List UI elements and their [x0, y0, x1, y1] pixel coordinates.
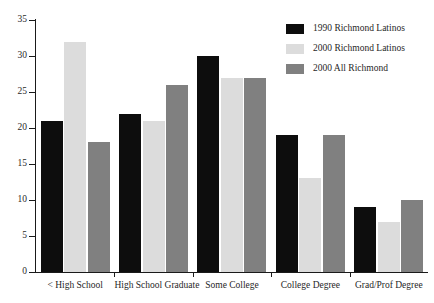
- y-axis-tick: [29, 236, 36, 237]
- legend-swatch-icon: [286, 44, 304, 54]
- y-axis-tick: [29, 128, 36, 129]
- bar[interactable]: [197, 56, 219, 272]
- y-axis-tick-label: 10: [1, 195, 27, 205]
- legend-item[interactable]: 2000 Richmond Latinos: [286, 39, 434, 59]
- bar[interactable]: [41, 121, 63, 272]
- bar-group: [36, 20, 114, 272]
- y-axis-tick-labels: 05101520253035: [0, 0, 27, 303]
- y-axis-tick-label: 0: [1, 267, 27, 277]
- bar[interactable]: [244, 78, 266, 272]
- x-axis-line: [35, 272, 428, 273]
- x-axis-tick: [193, 273, 194, 277]
- x-axis-tick: [271, 273, 272, 277]
- bar[interactable]: [323, 135, 345, 272]
- x-axis-category-label: High School Graduate: [114, 281, 192, 291]
- bar[interactable]: [166, 85, 188, 272]
- y-axis-tick-label: 15: [1, 159, 27, 169]
- y-axis-tick: [29, 164, 36, 165]
- bar[interactable]: [221, 78, 243, 272]
- bar[interactable]: [88, 142, 110, 272]
- bar[interactable]: [401, 200, 423, 272]
- y-axis-tick: [29, 92, 36, 93]
- x-axis-category-label: College Degree: [271, 281, 349, 291]
- bar[interactable]: [119, 114, 141, 272]
- bar[interactable]: [299, 178, 321, 272]
- legend-label: 1990 Richmond Latinos: [313, 24, 405, 34]
- y-axis-tick: [29, 272, 36, 273]
- legend-swatch-icon: [286, 64, 304, 74]
- bar-chart: 05101520253035 < High SchoolHigh School …: [0, 0, 434, 303]
- bar[interactable]: [276, 135, 298, 272]
- y-axis-tick-label: 20: [1, 123, 27, 133]
- y-axis-tick-label: 5: [1, 231, 27, 241]
- bar-group: [193, 20, 271, 272]
- legend-item[interactable]: 1990 Richmond Latinos: [286, 19, 434, 39]
- x-axis-tick: [350, 273, 351, 277]
- bar[interactable]: [64, 42, 86, 272]
- y-axis-tick-label: 25: [1, 87, 27, 97]
- legend-item[interactable]: 2000 All Richmond: [286, 59, 434, 79]
- bar[interactable]: [143, 121, 165, 272]
- bar-group: [114, 20, 192, 272]
- bar[interactable]: [354, 207, 376, 272]
- x-axis-tick: [114, 273, 115, 277]
- x-axis-category-label: Some College: [193, 281, 271, 291]
- y-axis-tick: [29, 20, 36, 21]
- y-axis-tick: [29, 56, 36, 57]
- y-axis-tick: [29, 200, 36, 201]
- x-axis-category-label: < High School: [36, 281, 114, 291]
- legend-label: 2000 Richmond Latinos: [313, 44, 405, 54]
- legend-label: 2000 All Richmond: [313, 64, 388, 74]
- y-axis-tick-label: 35: [1, 15, 27, 25]
- chart-legend: 1990 Richmond Latinos2000 Richmond Latin…: [286, 19, 434, 79]
- bar[interactable]: [378, 222, 400, 272]
- legend-swatch-icon: [286, 24, 304, 34]
- y-axis-tick-label: 30: [1, 51, 27, 61]
- x-axis-category-label: Grad/Prof Degree: [350, 281, 428, 291]
